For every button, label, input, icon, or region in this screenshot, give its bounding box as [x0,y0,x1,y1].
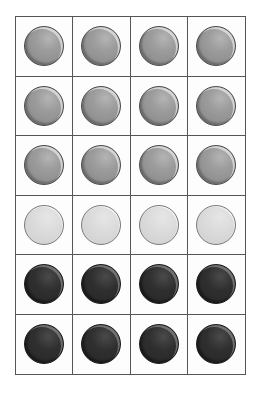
grid-cell [131,196,188,256]
medium-circle-counter-icon [81,86,121,126]
medium-circle-counter-icon [24,86,64,126]
light-circle-counter-icon [196,205,236,245]
grid-cell [16,17,73,77]
dark-circle-counter-icon [139,264,179,304]
grid-cell [16,136,73,196]
grid-cell [131,255,188,315]
grid-cell [188,196,245,256]
grid-cell [131,136,188,196]
grid-cell [73,315,130,375]
light-circle-counter-icon [24,205,64,245]
dark-circle-counter-icon [24,324,64,364]
medium-circle-counter-icon [196,86,236,126]
grid-cell [188,136,245,196]
dark-circle-counter-icon [24,264,64,304]
medium-circle-counter-icon [139,86,179,126]
dark-circle-counter-icon [81,324,121,364]
grid-cell [73,136,130,196]
medium-circle-counter-icon [196,26,236,66]
grid-cell [188,77,245,137]
medium-circle-counter-icon [24,145,64,185]
grid-cell [188,17,245,77]
medium-circle-counter-icon [24,26,64,66]
grid-cell [16,77,73,137]
grid-cell [73,196,130,256]
counter-grid [15,16,246,375]
medium-circle-counter-icon [81,26,121,66]
grid-cell [188,255,245,315]
figure-frame [0,0,263,393]
grid-cell [131,17,188,77]
grid-cell [16,315,73,375]
dark-circle-counter-icon [139,324,179,364]
medium-circle-counter-icon [139,145,179,185]
dark-circle-counter-icon [196,324,236,364]
grid-cell [131,315,188,375]
grid-cell [73,17,130,77]
dark-circle-counter-icon [81,264,121,304]
medium-circle-counter-icon [81,145,121,185]
grid-cell [188,315,245,375]
grid-cell [73,77,130,137]
dark-circle-counter-icon [196,264,236,304]
grid-cell [16,255,73,315]
medium-circle-counter-icon [139,26,179,66]
grid-cell [16,196,73,256]
medium-circle-counter-icon [196,145,236,185]
grid-cell [73,255,130,315]
grid-cell [131,77,188,137]
light-circle-counter-icon [81,205,121,245]
light-circle-counter-icon [139,205,179,245]
